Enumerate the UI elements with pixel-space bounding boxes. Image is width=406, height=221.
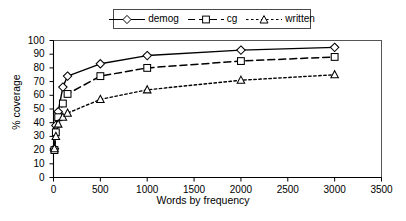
y-tick-label: 60 [19,89,45,100]
legend-marker-square-icon [188,14,224,25]
data-point-cg [144,65,151,72]
y-tick-label: 0 [19,172,45,183]
data-point-cg [59,100,66,107]
y-tick-label: 40 [19,117,45,128]
y-tick-label: 70 [19,76,45,87]
x-tick-label: 2500 [268,184,308,195]
x-axis-title: Words by frequency [0,194,406,206]
data-point-cg [331,54,338,61]
legend-item-cg: cg [188,14,238,25]
legend-marker-diamond-icon [109,14,145,25]
y-tick-label: 80 [19,62,45,73]
chart-legend: demog cg written [113,9,311,29]
y-tick-label: 10 [19,158,45,169]
x-tick-label: 1000 [127,184,167,195]
data-point-cg [97,73,104,80]
x-tick-label: 1500 [174,184,214,195]
plot-frame [54,41,382,178]
legend-item-written: written [246,14,314,25]
legend-label-demog: demog [148,14,179,24]
chart-figure: demog cg written Words by frequency % co… [0,0,406,221]
y-tick-label: 100 [19,35,45,46]
y-tick-label: 20 [19,144,45,155]
x-tick-label: 0 [34,184,74,195]
legend-label-cg: cg [227,14,238,24]
y-tick-label: 30 [19,130,45,141]
y-tick-label: 90 [19,48,45,59]
data-point-cg [238,58,245,65]
x-tick-label: 2000 [221,184,261,195]
legend-item-demog: demog [109,14,179,25]
x-tick-label: 3000 [315,184,355,195]
legend-marker-triangle-icon [246,14,282,25]
y-tick-label: 50 [19,103,45,114]
x-tick-label: 3500 [362,184,402,195]
x-tick-label: 500 [80,184,120,195]
legend-label-written: written [285,14,314,24]
data-point-cg [64,91,71,98]
